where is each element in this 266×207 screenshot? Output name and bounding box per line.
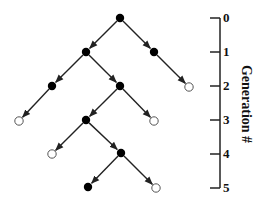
axis-tick-label: 4 bbox=[223, 147, 230, 160]
open-node bbox=[152, 184, 160, 192]
axis-tick-label: 5 bbox=[223, 181, 230, 194]
edge-arrow bbox=[89, 55, 116, 82]
filled-node bbox=[82, 116, 90, 124]
axis-title: Generation # bbox=[238, 65, 254, 143]
filled-node bbox=[84, 183, 92, 191]
filled-node bbox=[116, 14, 124, 22]
open-node bbox=[15, 117, 23, 125]
axis-ticks bbox=[210, 18, 220, 188]
filled-node bbox=[82, 48, 90, 56]
filled-node bbox=[150, 48, 158, 56]
axis-tick-label: 2 bbox=[223, 79, 230, 92]
edge-arrow bbox=[56, 123, 83, 150]
edge-arrow bbox=[23, 89, 50, 117]
filled-node bbox=[116, 82, 124, 90]
axis-tick-label: 3 bbox=[223, 113, 230, 126]
filled-node bbox=[48, 82, 56, 90]
edge-arrow bbox=[56, 55, 83, 82]
edge-arrow bbox=[124, 156, 152, 184]
edge-arrow bbox=[90, 21, 117, 48]
edge-arrow bbox=[90, 89, 117, 116]
tree-nodes bbox=[15, 14, 193, 192]
filled-node bbox=[117, 149, 125, 157]
edge-arrow bbox=[123, 21, 150, 48]
edge-arrow bbox=[89, 123, 117, 150]
tree-edges bbox=[23, 21, 186, 184]
edge-arrow bbox=[92, 156, 118, 183]
generation-tree-diagram bbox=[0, 0, 266, 207]
edge-arrow bbox=[123, 89, 150, 117]
open-node bbox=[150, 117, 158, 125]
axis-tick-label: 1 bbox=[223, 45, 230, 58]
generation-axis bbox=[210, 18, 220, 188]
edge-arrow bbox=[157, 55, 185, 83]
open-node bbox=[185, 83, 193, 91]
open-node bbox=[48, 150, 56, 158]
axis-tick-label: 0 bbox=[223, 11, 230, 24]
